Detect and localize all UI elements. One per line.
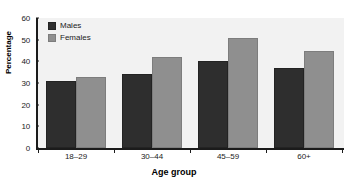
chart-legend: MalesFemales <box>48 21 91 42</box>
legend-item-males: Males <box>48 21 91 30</box>
y-axis-tick-label: 30 <box>22 79 31 88</box>
bar-males-1 <box>122 74 152 148</box>
x-axis-tick-mark <box>342 150 343 153</box>
x-axis-tick-label: 18–29 <box>38 152 114 166</box>
legend-item-label: Males <box>60 21 81 30</box>
y-axis-tick-label: 10 <box>22 122 31 131</box>
y-axis-tick-label: 60 <box>22 14 31 23</box>
y-axis-tick-label: 40 <box>22 57 31 66</box>
bar-chart-screenshot: 0102030405060 Percentage 18–2930–4445–59… <box>0 0 348 185</box>
legend-item-females: Females <box>48 33 91 42</box>
bar-males-2 <box>198 61 228 148</box>
bar-females-0 <box>76 77 106 149</box>
y-axis-tick-label: 0 <box>26 144 30 153</box>
bar-group <box>266 18 342 148</box>
chart-figure: 0102030405060 Percentage 18–2930–4445–59… <box>0 0 348 185</box>
bar-males-0 <box>46 81 76 148</box>
bar-females-2 <box>228 38 258 149</box>
legend-swatch-icon <box>48 22 56 30</box>
legend-swatch-icon <box>48 34 56 42</box>
legend-item-label: Females <box>60 33 91 42</box>
bar-males-3 <box>274 68 304 148</box>
bar-group <box>114 18 190 148</box>
x-axis-title: Age group <box>0 167 348 177</box>
y-axis-tick-label: 20 <box>22 100 31 109</box>
bar-group <box>190 18 266 148</box>
y-axis-title: Percentage <box>4 13 13 93</box>
x-axis-tick-label: 60+ <box>266 152 342 166</box>
y-axis-tick-label: 50 <box>22 35 31 44</box>
bar-females-3 <box>304 51 334 149</box>
x-axis-tick-labels: 18–2930–4445–5960+ <box>38 152 342 166</box>
x-axis-tick-label: 30–44 <box>114 152 190 166</box>
bar-females-1 <box>152 57 182 148</box>
x-axis-tick-label: 45–59 <box>190 152 266 166</box>
